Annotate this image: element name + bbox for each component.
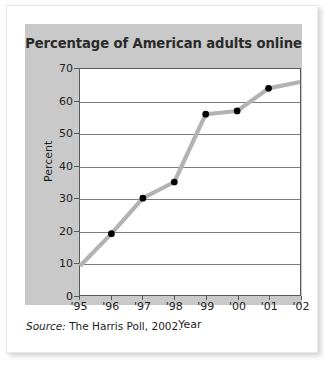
data-point-marker (234, 108, 241, 115)
data-series-online-percentage (80, 69, 300, 295)
x-tick-label: '02 (286, 300, 316, 313)
plot-area (79, 68, 301, 296)
source-note: Source: The Harris Poll, 2002. (26, 320, 182, 332)
y-tick-label: 30 (47, 192, 73, 205)
data-point-marker (139, 195, 146, 202)
x-tick-label: '97 (127, 300, 157, 313)
x-tick-label: '98 (159, 300, 189, 313)
data-point-marker (202, 111, 209, 118)
data-point-marker (265, 85, 272, 92)
y-tick-label: 20 (47, 224, 73, 237)
y-tick-label: 50 (47, 127, 73, 140)
y-tick-label: 10 (47, 257, 73, 270)
y-tick-label: 70 (47, 62, 73, 75)
x-tick-label: '95 (64, 300, 94, 313)
chart-panel: Percentage of American adults online Per… (25, 24, 302, 305)
x-tick-label: '00 (223, 300, 253, 313)
series-line (80, 82, 300, 266)
data-point-marker (108, 230, 115, 237)
x-tick-label: '96 (96, 300, 126, 313)
source-label: Source: (26, 320, 66, 332)
x-tick-label: '01 (254, 300, 284, 313)
x-tick-label: '99 (191, 300, 221, 313)
source-text: The Harris Poll, 2002. (69, 320, 181, 332)
figure-card: Percentage of American adults online Per… (6, 5, 318, 353)
y-tick-label: 40 (47, 159, 73, 172)
chart-title: Percentage of American adults online (25, 36, 302, 51)
y-tick-label: 60 (47, 94, 73, 107)
data-point-marker (171, 179, 178, 186)
